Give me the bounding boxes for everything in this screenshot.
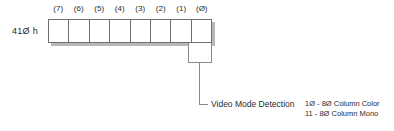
callout-title: Video Mode Detection [211,99,294,110]
bit-cell-3 [131,20,151,42]
bit-index-row: (7) (6) (5) (4) (3) (2) (1) (Ø) [48,3,212,15]
callout-value-list: 1Ø - 8Ø Column Color 11 - 8Ø Column Mono [305,99,380,119]
bit-cell-1 [171,20,191,42]
bit-index-6: (6) [69,3,90,15]
bit-index-2: (2) [151,3,172,15]
callout-value-row-0: 1Ø - 8Ø Column Color [305,99,380,109]
bit-index-7: (7) [48,3,69,15]
register-cells [48,19,212,43]
bit-cell-5 [90,20,110,42]
callout-bracket-box [188,43,212,63]
register-bitfield-diagram: 41Ø h (7) (6) (5) (4) (3) (2) (1) (Ø) Vi… [0,0,394,131]
register-address-label: 41Ø h [12,26,38,36]
bit-index-3: (3) [130,3,151,15]
bit-cell-4 [110,20,130,42]
bit-index-5: (5) [89,3,110,15]
bit-index-4: (4) [110,3,131,15]
callout-value-row-1: 11 - 8Ø Column Mono [305,109,380,119]
bit-index-0: (Ø) [192,3,213,15]
callout-drop-line [199,63,200,105]
register-box [48,19,212,43]
bit-index-1: (1) [171,3,192,15]
bit-cell-7 [49,20,69,42]
bit-cell-2 [151,20,171,42]
bit-cell-6 [69,20,89,42]
bit-cell-0 [192,20,211,42]
callout-elbow-foot [199,104,208,105]
